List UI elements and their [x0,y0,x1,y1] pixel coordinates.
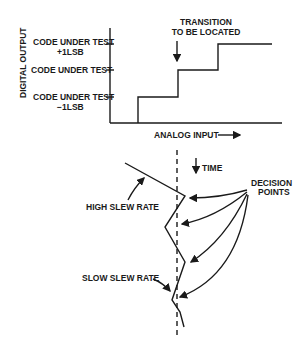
staircase-transfer-curve [138,44,272,123]
level-label-minus: CODE UNDER TEST [33,92,115,102]
transfer-function-chart: DIGITAL OUTPUT CODE UNDER TEST +1LSB COD… [18,17,282,140]
high-slew-label: HIGH SLEW RATE [86,202,159,212]
time-label: TIME [202,163,223,173]
slew-rate-diagram: DIGITAL OUTPUT CODE UNDER TEST +1LSB COD… [0,0,301,347]
slow-slew-label: SLOW SLEW RATE [82,273,160,283]
level-sub-minus: −1LSB [57,102,84,112]
y-axis-label: DIGITAL OUTPUT [18,27,28,98]
slow-slew-pointer-icon [153,279,170,291]
decision-arrow-1-icon [190,190,247,198]
decision-arrow-3-icon [191,194,247,262]
transition-label-2: TO BE LOCATED [172,27,241,37]
decision-diagram: TIME HIGH SLEW RATE SLOW SLEW RATE DECIS… [82,150,292,335]
diagram-canvas: DIGITAL OUTPUT CODE UNDER TEST +1LSB COD… [0,0,301,347]
level-sub-plus: +1LSB [57,47,84,57]
decision-label-2: POINTS [258,187,290,197]
x-axis-label: ANALOG INPUT [154,130,220,140]
level-label-plus: CODE UNDER TEST [33,37,115,47]
signal-path [125,163,185,327]
level-label-code: CODE UNDER TEST [31,65,113,75]
transition-label-1: TRANSITION [180,17,232,27]
high-slew-pointer-icon [128,178,144,200]
